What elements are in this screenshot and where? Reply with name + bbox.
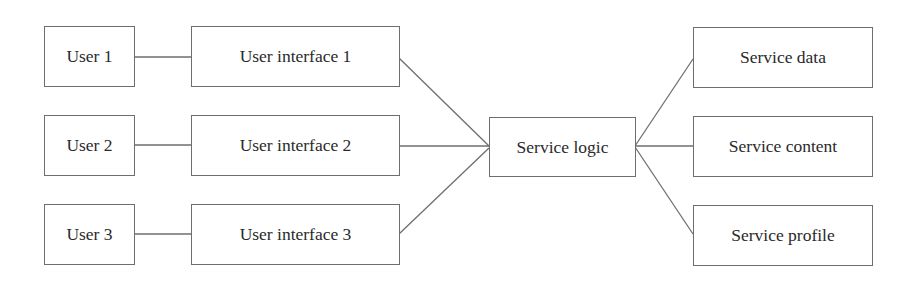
user-2-box: User 2 (44, 115, 135, 176)
service-content-label: Service content (729, 136, 837, 157)
service-content-box: Service content (693, 116, 873, 177)
link-logic-profile (635, 147, 693, 234)
user-2-label: User 2 (66, 135, 112, 156)
service-profile-label: Service profile (731, 225, 835, 246)
service-profile-box: Service profile (693, 205, 873, 266)
service-logic-label: Service logic (517, 137, 609, 158)
user-1-box: User 1 (44, 26, 135, 87)
link-ui1-logic (399, 58, 489, 146)
user-1-label: User 1 (66, 46, 112, 67)
user-3-box: User 3 (44, 204, 135, 265)
service-data-box: Service data (693, 27, 873, 88)
user-interface-2-label: User interface 2 (240, 135, 352, 156)
service-logic-box: Service logic (489, 117, 636, 177)
user-interface-3-label: User interface 3 (240, 224, 352, 245)
service-data-label: Service data (740, 47, 826, 68)
user-interface-3-box: User interface 3 (191, 204, 400, 265)
user-interface-1-box: User interface 1 (191, 26, 400, 87)
link-ui3-logic (399, 148, 489, 234)
user-3-label: User 3 (66, 224, 112, 245)
user-interface-1-label: User interface 1 (240, 46, 352, 67)
link-logic-data (635, 59, 693, 146)
user-interface-2-box: User interface 2 (191, 115, 400, 176)
